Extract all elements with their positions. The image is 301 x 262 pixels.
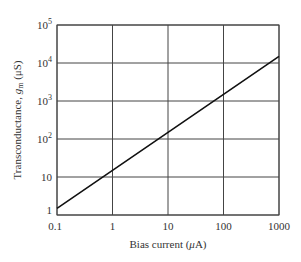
y-tick-label: 104: [37, 55, 52, 69]
x-tick-label: 1: [110, 220, 116, 232]
y-tick-label: 103: [37, 93, 52, 107]
y-tick-labels: 110102103104105: [37, 17, 53, 216]
y-axis-label: Transconductance, gm (μS): [11, 60, 25, 179]
chart: 0.11101001000 110102103104105 Bias curre…: [0, 0, 301, 262]
x-tick-label: 1000: [268, 220, 291, 232]
plot-area: [57, 25, 279, 215]
x-tick-labels: 0.11101001000: [48, 220, 290, 232]
x-tick-label: 10: [163, 220, 175, 232]
y-tick-label: 10: [41, 171, 53, 183]
y-tick-label: 1: [47, 204, 53, 216]
x-tick-label: 100: [215, 220, 232, 232]
y-tick-label: 105: [37, 17, 52, 31]
x-axis-label: Bias current (μA): [129, 238, 206, 251]
grid-lines: [57, 25, 279, 215]
x-tick-label: 0.1: [48, 220, 62, 232]
y-tick-label: 102: [37, 131, 52, 145]
